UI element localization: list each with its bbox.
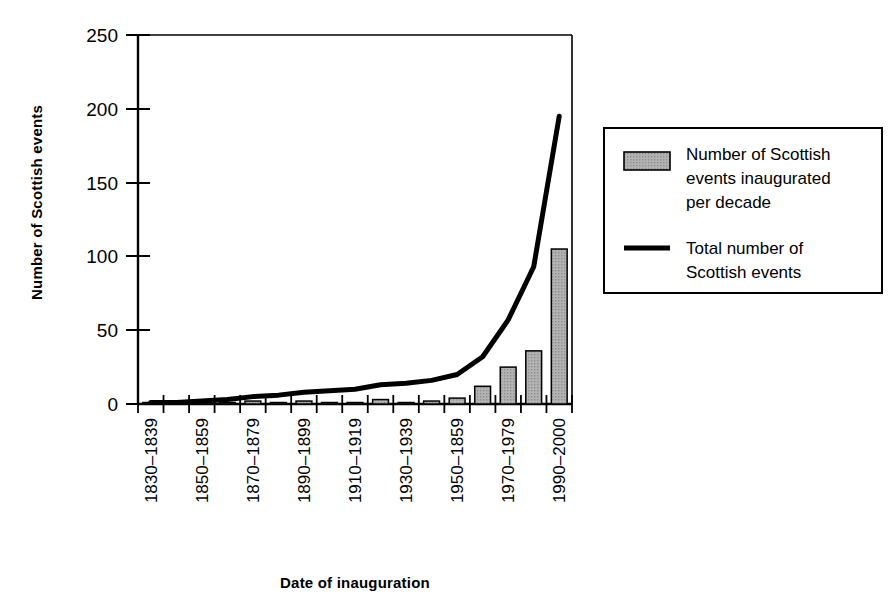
bar [398,403,414,405]
plot-frame [138,35,572,404]
legend-swatch-bar [624,152,670,170]
chart-figure: 250 200 150 100 50 0 Number of Scottish … [0,0,890,609]
x-axis-title: Date of inauguration [280,574,430,591]
bar [526,351,542,404]
legend: Number of Scottish events inaugurated pe… [604,128,882,293]
y-tick-label: 200 [86,99,118,120]
bar [271,403,287,405]
bar [449,398,465,404]
x-tick-label: 1830–1839 [142,418,161,503]
chart-svg: 250 200 150 100 50 0 Number of Scottish … [0,0,890,609]
x-tick-label: 1910–1919 [346,418,365,503]
x-tick-label: 1950–1859 [448,418,467,503]
bar [347,403,363,405]
legend-label-line: per decade [686,193,771,212]
x-tick-label: 1970–1979 [499,418,518,503]
legend-label-line: Scottish events [686,263,801,282]
x-tick-label: 1930–1939 [397,418,416,503]
y-axis-title: Number of Scottish events [28,105,45,300]
y-tick-label: 100 [86,246,118,267]
x-tick-label: 1870–1879 [244,418,263,503]
bar [424,401,440,404]
bar [219,403,235,405]
y-tick-label: 50 [97,320,118,341]
line-series [151,116,559,402]
x-tick-labels: 1830–18391850–18591870–18791890–18991910… [142,418,569,503]
y-tick-label: 0 [107,394,118,415]
bar [373,400,389,404]
x-tick-label: 1990–2000 [550,418,569,503]
bar [245,401,261,404]
bar [475,386,491,404]
x-tick-label: 1890–1899 [295,418,314,503]
y-tick-labels: 250 200 150 100 50 0 [86,25,118,415]
x-tick-label: 1850–1859 [193,418,212,503]
bar [322,403,338,405]
cumulative-line [151,116,559,402]
bar [500,367,516,404]
y-tick-label: 250 [86,25,118,46]
y-tick-label: 150 [86,173,118,194]
legend-label-line: Total number of [686,239,803,258]
legend-label-line: events inaugurated [686,169,831,188]
bar [551,249,567,404]
legend-label-line: Number of Scottish [686,145,831,164]
bar [296,401,312,404]
